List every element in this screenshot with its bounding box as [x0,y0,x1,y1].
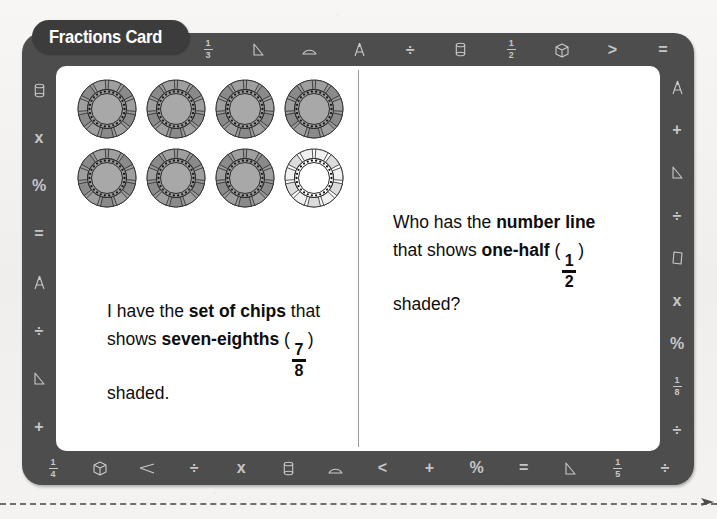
question-text: Who has the number line that shows one-h… [393,208,628,318]
rectangle-icon [666,247,688,269]
fraction-numerator: 1 [674,376,679,386]
fractions-card: Fractions Card 13÷12>= 14÷x<+%=15÷ x%=÷+… [22,33,694,485]
multiply-icon: x [666,290,688,312]
percent-icon: % [466,457,488,479]
equals-icon: = [652,39,674,61]
fraction-numerator: 1 [615,458,620,468]
chip-shaded [145,147,207,209]
triangle-icon [560,457,582,479]
cut-line [0,503,717,506]
card-inner-area: I have the set of chips that shows seven… [56,66,660,451]
statement-bold-set-of-chips: set of chips [189,301,286,321]
chip-shaded [76,78,138,140]
fraction-one-half: 12 [562,253,576,290]
statement-close-paren: ) [308,329,314,349]
compass-icon [666,76,688,98]
question-tail: shaded? [393,294,460,314]
fraction-one-fourth: 14 [42,457,64,479]
statement-open-paren: ( [284,329,290,349]
triangle-icon [666,162,688,184]
greater-than-icon: > [601,39,623,61]
question-mid: that shows [393,240,482,260]
multiply-icon: x [230,457,252,479]
cylinder-icon [277,457,299,479]
fraction-numerator: 1 [509,39,514,49]
border-strip-left: x%=÷+ [22,66,56,451]
fraction-one-half: 12 [500,39,522,61]
question-lead: Who has the [393,212,496,232]
question-bold-one-half: one-half [482,240,550,260]
panel-left: I have the set of chips that shows seven… [56,66,358,451]
statement-lead: I have the [107,301,189,321]
divide-icon: ÷ [28,320,50,342]
chip-shaded [283,78,345,140]
fraction-denominator: 5 [615,469,620,479]
plus-icon: + [419,457,441,479]
statement-bold-seven-eighths: seven-eighths [161,329,279,349]
fraction-denominator: 4 [50,469,55,479]
fraction-denominator: 2 [509,50,514,60]
fraction-numerator: 7 [294,342,303,359]
less-than-icon: < [371,457,393,479]
divide-icon: ÷ [666,419,688,441]
set-of-chips [76,78,352,216]
chip-shaded [76,147,138,209]
question-open-paren: ( [554,240,560,260]
divide-icon: ÷ [183,457,205,479]
fraction-one-eighth: 18 [666,376,688,398]
compass-icon [28,272,50,294]
protractor-icon [324,457,346,479]
divide-icon: ÷ [666,205,688,227]
percent-icon: % [666,333,688,355]
compass-icon [349,39,371,61]
statement-text: I have the set of chips that shows seven… [107,297,367,407]
plus-icon: + [28,416,50,438]
fraction-numerator: 1 [205,39,210,49]
card-title-tab: Fractions Card [32,20,189,54]
cube-icon [551,39,573,61]
fraction-denominator: 3 [205,50,210,60]
fraction-seven-eighths: 78 [292,342,306,379]
multiply-icon: x [28,127,50,149]
fraction-numerator: 1 [50,458,55,468]
equals-icon: = [28,223,50,245]
protractor-icon [298,39,320,61]
cylinder-icon [450,39,472,61]
equals-icon: = [513,457,535,479]
question-close-paren: ) [578,240,584,260]
cube-icon [89,457,111,479]
chip-shaded [214,147,276,209]
fraction-one-third: 13 [197,39,219,61]
triangle-icon [28,368,50,390]
statement-tail: shaded. [107,383,169,403]
fraction-numerator: 1 [565,253,574,270]
divide-icon: ÷ [399,39,421,61]
percent-icon: % [28,175,50,197]
border-strip-top: 13÷12>= [197,33,680,66]
plus-icon: + [666,119,688,141]
card-title: Fractions Card [49,27,162,48]
triangle-icon [248,39,270,61]
cylinder-icon [28,79,50,101]
fraction-denominator: 8 [294,362,303,379]
divide-icon: ÷ [654,457,676,479]
border-strip-bottom: 14÷x<+%=15÷ [38,451,680,485]
chip-shaded [214,78,276,140]
arrow-left-icon [136,457,158,479]
fraction-denominator: 8 [674,387,679,397]
chip-unshaded [283,147,345,209]
fraction-one-fifth: 15 [607,457,629,479]
question-bold-number-line: number line [496,212,595,232]
border-strip-right: +÷x%18÷ [660,66,694,451]
chip-shaded [145,78,207,140]
fraction-denominator: 2 [565,273,574,290]
panel-right: Who has the number line that shows one-h… [358,66,660,451]
scissors-icon [697,494,715,512]
